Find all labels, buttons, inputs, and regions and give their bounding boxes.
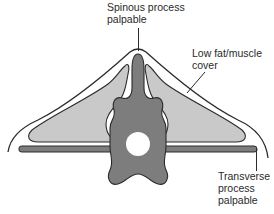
spinous-label-line2: palpable [107,13,185,25]
lowfat-label-line1: Low fat/muscle [192,47,262,59]
spinous-process-label: Spinous process palpable [107,1,185,25]
spinal-canal [126,132,150,156]
lowfat-leader-line [187,72,205,93]
spinous-label-line1: Spinous process [107,1,185,13]
transverse-label-line1: Transverse [218,170,270,182]
transverse-label-line2: process [218,182,270,194]
transverse-process-label: Transverse process palpable [218,170,270,206]
vertebra [108,54,167,184]
lowfat-label-line2: cover [192,59,262,71]
low-fat-muscle-label: Low fat/muscle cover [192,47,262,71]
transverse-label-line3: palpable [218,194,270,206]
